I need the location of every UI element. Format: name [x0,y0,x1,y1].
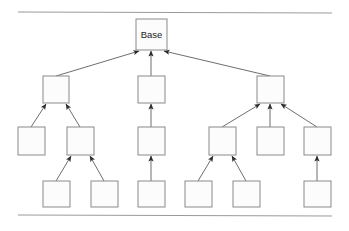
node-l2b[interactable] [138,76,165,103]
edge-l4e-to-l3d [232,156,246,181]
edges-layer [31,51,317,181]
node-box [304,127,331,155]
edge-l3a-to-l2a [31,104,46,127]
node-l3c[interactable] [138,127,165,155]
node-l4d[interactable] [185,181,212,207]
node-box [185,181,212,207]
node-box [43,76,69,103]
node-l2a[interactable] [43,76,69,103]
node-box [138,76,165,103]
node-label: Base [141,29,163,40]
edge-l3f-to-l2c [281,104,317,127]
node-l2c[interactable] [257,76,284,103]
node-box [18,127,45,155]
hierarchy-diagram: Base [0,0,349,231]
node-box [91,181,118,207]
node-box [304,181,331,207]
node-box [43,181,70,207]
node-box [209,127,236,155]
edge-l4b-to-l3b [90,156,104,181]
node-l3d[interactable] [209,127,236,155]
node-l3a[interactable] [18,127,45,155]
rule-bottom [18,215,332,216]
node-l4e[interactable] [233,181,260,207]
edge-l4d-to-l3d [198,156,213,181]
node-box [67,127,94,155]
node-base[interactable]: Base [136,19,167,50]
node-l4a[interactable] [43,181,70,207]
node-box [138,127,165,155]
node-l4b[interactable] [91,181,118,207]
edge-l2c-to-base [164,51,270,76]
edge-l3b-to-l2a [66,104,80,127]
node-l4f[interactable] [304,181,331,207]
node-l4c[interactable] [138,181,165,207]
nodes-layer: Base [18,19,331,207]
node-l3e[interactable] [257,127,284,155]
node-box [233,181,260,207]
edge-l3d-to-l2c [222,104,260,127]
node-box [257,127,284,155]
node-l3b[interactable] [67,127,94,155]
node-box [138,181,165,207]
node-box [257,76,284,103]
node-l3f[interactable] [304,127,331,155]
edge-l4a-to-l3b [56,156,71,181]
rule-top [18,12,332,13]
edge-l2a-to-base [56,51,139,76]
diagram-canvas: Base [0,0,349,231]
